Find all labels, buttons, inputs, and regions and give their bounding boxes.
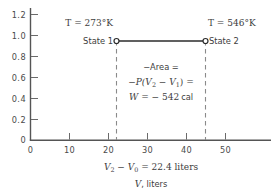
data-point-state2-marker <box>203 39 208 44</box>
delta-volume-minus: − V <box>114 162 135 172</box>
delta-volume-text: V2 − V0 = 22.4 liters <box>104 162 199 174</box>
x-axis-caption-rest: , liters <box>141 179 167 189</box>
y-tick-marks <box>31 15 38 120</box>
y-tick-label-0: 0 <box>20 135 26 145</box>
y-tick-label-1.2: 1.2 <box>12 10 26 20</box>
area-formula-suffix: ) = <box>180 77 194 87</box>
work-symbol: W <box>129 92 139 102</box>
data-point-state1-marker <box>114 39 119 44</box>
y-tick-label-0.8: 0.8 <box>12 52 26 62</box>
y-tick-label-0.2: 0.2 <box>12 115 26 125</box>
delta-volume-caption: V2 − V0 = 22.4 liters <box>104 162 199 174</box>
area-label-line2: −P(V2 − V1) = <box>128 77 193 89</box>
y-tick-label-1.0: 1.0 <box>12 31 26 41</box>
area-work-annotation: −Area = −P(V2 − V1) = W= − 542cal <box>128 62 193 102</box>
state2-name-label: State 2 <box>209 36 239 46</box>
state2-annotation: T = 546°K State 2 <box>208 18 256 46</box>
state1-annotation: T = 273°K State 1 <box>65 18 113 46</box>
x-tick-marks <box>70 133 226 140</box>
work-label-line3: W= − 542cal <box>129 92 193 102</box>
x-tick-label-10: 10 <box>64 145 75 155</box>
y-tick-label-0.6: 0.6 <box>12 73 26 83</box>
x-tick-labels: 0 10 20 30 40 50 <box>28 145 231 155</box>
x-tick-label-20: 20 <box>103 145 114 155</box>
work-unit: cal <box>181 92 193 102</box>
dashed-verticals <box>117 41 206 140</box>
x-tick-label-30: 30 <box>142 145 153 155</box>
delta-volume-value: = 22.4 liters <box>138 162 198 172</box>
pressure-volume-chart: 1.2 1.0 0.8 0.6 0.4 0.2 0 0 10 20 30 40 … <box>0 0 278 195</box>
area-label-line1: −Area = <box>143 62 179 72</box>
state1-temperature-label: T = 273°K <box>65 18 113 28</box>
data-series-isobar <box>114 39 208 44</box>
area-formula-mid: − V <box>156 77 177 87</box>
x-tick-label-40: 40 <box>181 145 192 155</box>
state2-temperature-label: T = 546°K <box>208 18 256 28</box>
state1-name-label: State 1 <box>83 36 113 46</box>
x-axis-caption-text: V, liters <box>135 179 167 189</box>
y-tick-labels: 1.2 1.0 0.8 0.6 0.4 0.2 0 <box>12 10 26 146</box>
y-tick-label-0.4: 0.4 <box>12 94 26 104</box>
x-tick-label-50: 50 <box>220 145 231 155</box>
x-tick-label-0: 0 <box>28 145 34 155</box>
x-axis-caption: V, liters <box>135 179 167 189</box>
work-value: = − 542 <box>141 92 179 102</box>
area-formula-prefix: −P(V <box>128 77 153 87</box>
chart-svg: 1.2 1.0 0.8 0.6 0.4 0.2 0 0 10 20 30 40 … <box>0 0 278 195</box>
